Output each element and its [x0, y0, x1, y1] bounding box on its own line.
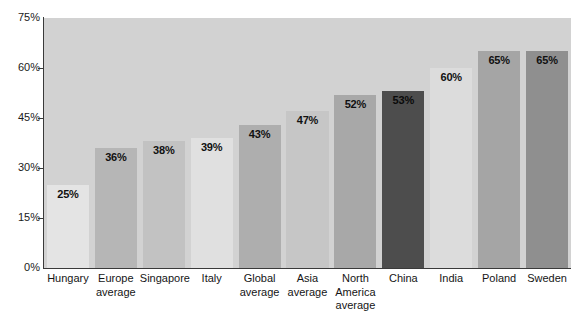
x-axis-tick-label: Sweden: [523, 272, 571, 286]
bar-value-label: 38%: [143, 144, 185, 156]
y-axis: 75%60%45%30%15%0%: [0, 0, 40, 333]
plot-area: 25%36%38%39%43%47%52%53%60%65%65%: [44, 18, 571, 268]
x-axis-tick-label: NorthAmericaaverage: [331, 272, 379, 313]
x-axis-tick-label-line1: Global: [244, 272, 276, 284]
x-axis: HungaryEuropeaverageSingaporeItalyGlobal…: [44, 272, 571, 330]
bar-asia: 47%: [286, 111, 328, 268]
x-axis-tick-label-line1: India: [439, 272, 463, 284]
x-axis-tick-label-line2: America: [331, 286, 379, 300]
chart-title: [0, 0, 575, 8]
y-axis-tick-mark: [38, 168, 44, 169]
y-axis-tick-label: 45%: [4, 112, 40, 123]
x-axis-tick-label-line1: Sweden: [527, 272, 567, 284]
x-axis-tick-label: Singapore: [140, 272, 188, 286]
bar-global: 43%: [239, 125, 281, 268]
x-axis-tick-label: Europeaverage: [92, 272, 140, 299]
x-axis-tick-label: Hungary: [44, 272, 92, 286]
x-axis-tick-label-line1: Hungary: [47, 272, 89, 284]
x-axis-tick-label-line1: Europe: [98, 272, 133, 284]
x-axis-tick-label-line1: China: [389, 272, 418, 284]
bar-sweden: 65%: [526, 51, 568, 268]
x-axis-tick-label-line1: Asia: [297, 272, 318, 284]
y-axis-tick-label: 60%: [4, 62, 40, 73]
bar-italy: 39%: [191, 138, 233, 268]
x-axis-tick-label-line2: average: [236, 286, 284, 300]
x-axis-tick-label-line1: Poland: [482, 272, 516, 284]
y-axis-tick-label: 30%: [4, 162, 40, 173]
x-axis-tick-label-line1: North: [342, 272, 369, 284]
bar-value-label: 36%: [95, 151, 137, 163]
y-axis-tick-label: 15%: [4, 212, 40, 223]
bar-value-label: 65%: [526, 54, 568, 66]
x-axis-tick-label-line2: average: [92, 286, 140, 300]
bar-chart: 75%60%45%30%15%0% 25%36%38%39%43%47%52%5…: [0, 0, 575, 333]
bar-value-label: 47%: [286, 114, 328, 126]
x-axis-tick-label: Globalaverage: [236, 272, 284, 299]
x-axis-line: [43, 268, 571, 269]
y-axis-tick-mark: [38, 68, 44, 69]
bar-value-label: 52%: [334, 98, 376, 110]
x-axis-tick-label: India: [427, 272, 475, 286]
bar-hungary: 25%: [47, 185, 89, 268]
y-axis-tick-label: 0%: [4, 262, 40, 273]
x-axis-tick-label: Italy: [188, 272, 236, 286]
y-axis-tick-mark: [38, 218, 44, 219]
bar-india: 60%: [430, 68, 472, 268]
bar-europe: 36%: [95, 148, 137, 268]
bar-value-label: 65%: [478, 54, 520, 66]
bar-china: 53%: [382, 91, 424, 268]
x-axis-tick-label-line1: Singapore: [140, 272, 190, 284]
bar-poland: 65%: [478, 51, 520, 268]
bar-value-label: 60%: [430, 71, 472, 83]
bar-value-label: 53%: [382, 94, 424, 106]
bar-north: 52%: [334, 95, 376, 268]
x-axis-tick-label-line1: Italy: [202, 272, 222, 284]
x-axis-tick-label-line3: average: [331, 299, 379, 313]
x-axis-tick-label-line2: average: [284, 286, 332, 300]
bar-value-label: 43%: [239, 128, 281, 140]
x-axis-tick-label: Poland: [475, 272, 523, 286]
x-axis-tick-label: Asiaaverage: [284, 272, 332, 299]
x-axis-tick-label: China: [379, 272, 427, 286]
bar-singapore: 38%: [143, 141, 185, 268]
y-axis-tick-label: 75%: [4, 12, 40, 23]
bar-value-label: 39%: [191, 141, 233, 153]
bar-value-label: 25%: [47, 188, 89, 200]
y-axis-tick-mark: [38, 118, 44, 119]
